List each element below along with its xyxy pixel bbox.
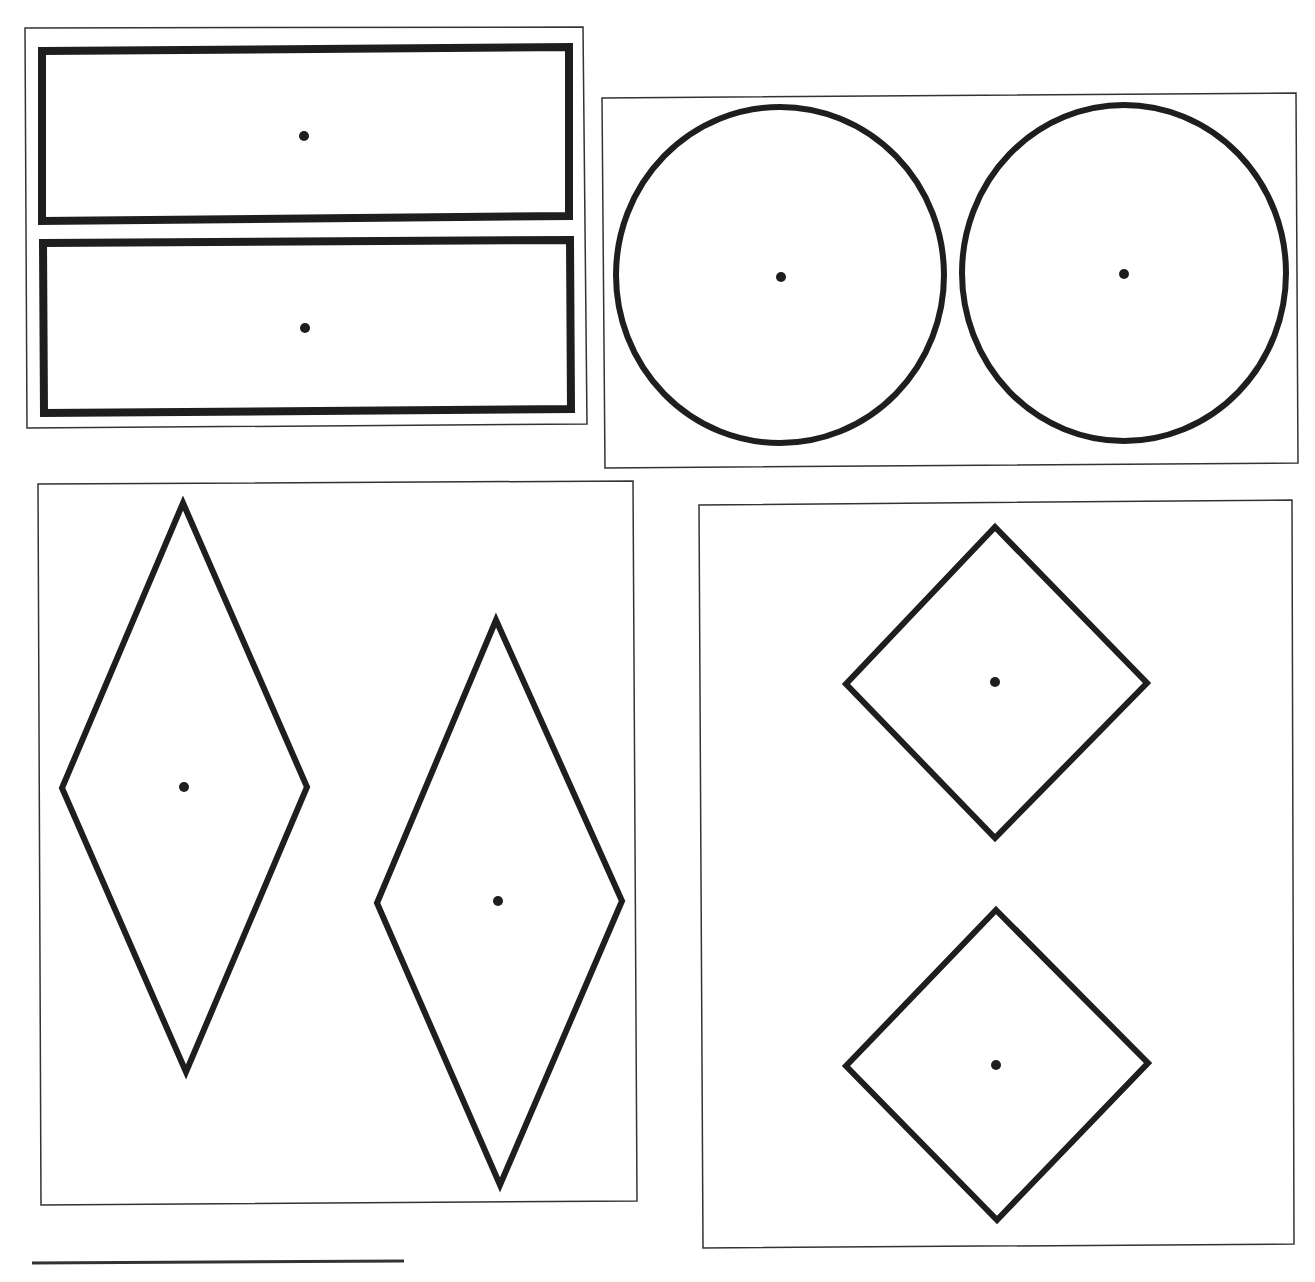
center-dot xyxy=(300,323,310,333)
center-dot xyxy=(991,1060,1001,1070)
scale-line xyxy=(32,1261,404,1263)
panels-layer xyxy=(25,27,1298,1248)
panel-tall-rhombuses xyxy=(38,481,637,1205)
center-dot xyxy=(493,896,503,906)
panel-frame xyxy=(25,27,587,428)
center-dot xyxy=(990,677,1000,687)
panel-frame xyxy=(38,481,637,1205)
center-dot xyxy=(179,782,189,792)
shapes-diagram xyxy=(0,0,1315,1282)
panel-circles xyxy=(602,93,1298,468)
center-dot xyxy=(1119,269,1129,279)
panel-frame xyxy=(699,500,1294,1248)
center-dot xyxy=(299,131,309,141)
center-dot xyxy=(776,272,786,282)
panel-squares xyxy=(699,500,1294,1248)
panel-frame xyxy=(602,93,1298,468)
panel-rectangles xyxy=(25,27,587,428)
